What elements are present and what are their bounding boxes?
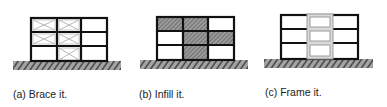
ground bbox=[140, 60, 248, 69]
infill-panels bbox=[158, 18, 233, 60]
ground bbox=[13, 61, 121, 70]
panel-infill bbox=[140, 17, 248, 69]
caption-frame: (c) Frame it. bbox=[265, 86, 322, 98]
moment-frame bbox=[307, 14, 333, 59]
panel-brace bbox=[13, 18, 121, 70]
panel-frame bbox=[264, 14, 373, 68]
caption-brace: (a) Brace it. bbox=[13, 88, 67, 100]
caption-infill: (b) Infill it. bbox=[139, 88, 185, 100]
ground bbox=[264, 59, 373, 68]
